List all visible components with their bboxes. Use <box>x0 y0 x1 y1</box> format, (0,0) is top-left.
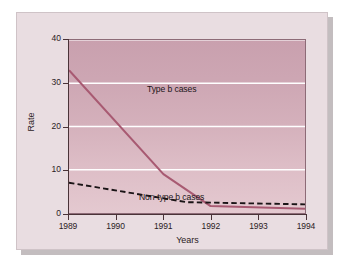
x-tick-1991 <box>163 215 164 220</box>
x-tick-1993 <box>258 215 259 220</box>
x-tick-1992 <box>211 215 212 220</box>
y-tick-label-10: 10 <box>35 164 61 174</box>
gridlines <box>69 40 305 170</box>
chart-card: Type b cases Non-type b cases 1989199019… <box>16 12 328 250</box>
x-tick-label-1993: 1993 <box>238 221 278 231</box>
x-tick-label-1991: 1991 <box>143 221 183 231</box>
y-tick-20 <box>63 127 68 128</box>
plot-area: Type b cases Non-type b cases <box>68 39 306 214</box>
y-tick-40 <box>63 39 68 40</box>
x-axis-title: Years <box>68 235 307 245</box>
y-tick-label-30: 30 <box>35 77 61 87</box>
x-axis-line <box>68 214 307 215</box>
y-tick-0 <box>63 214 68 215</box>
x-tick-1990 <box>116 215 117 220</box>
y-axis-line <box>68 39 69 215</box>
y-tick-label-40: 40 <box>35 33 61 43</box>
x-tick-label-1992: 1992 <box>191 221 231 231</box>
x-tick-label-1989: 1989 <box>48 221 88 231</box>
y-tick-10 <box>63 170 68 171</box>
series-label-type-b: Type b cases <box>147 84 196 94</box>
plot-canvas <box>69 40 305 213</box>
x-tick-1994 <box>306 215 307 220</box>
y-axis-title: Rate <box>26 92 36 152</box>
x-tick-label-1990: 1990 <box>96 221 136 231</box>
y-tick-30 <box>63 83 68 84</box>
y-tick-label-20: 20 <box>35 121 61 131</box>
series-label-non-type-b: Non-type b cases <box>139 192 204 202</box>
x-tick-1989 <box>68 215 69 220</box>
y-tick-label-0: 0 <box>35 208 61 218</box>
chart-figure: Type b cases Non-type b cases 1989199019… <box>0 0 342 267</box>
x-tick-label-1994: 1994 <box>286 221 326 231</box>
